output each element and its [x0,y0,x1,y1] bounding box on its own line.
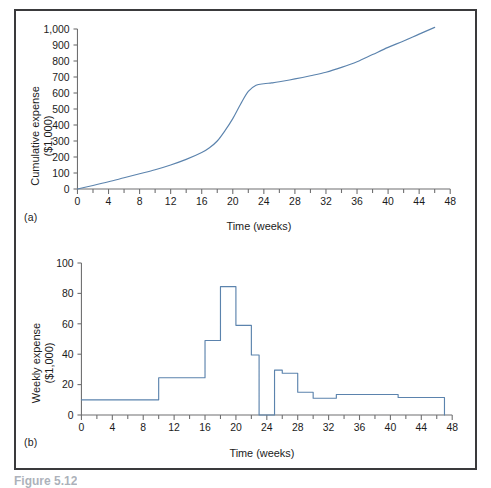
y-axis-tick-labels-a: 01002003004005006007008009001,000 [44,24,70,195]
x-axis-tick-label: 44 [416,422,428,433]
x-axis-tick-label: 12 [168,422,180,433]
x-axis-tick-label: 0 [75,196,81,207]
x-axis-tick-label: 16 [199,422,211,433]
panel-label-a: (a) [24,211,37,223]
axis-ticks-a [73,29,450,194]
x-axis-tick-label: 48 [444,196,456,207]
y-axis-tick-labels-b: 020406080100 [56,258,74,421]
chart-panel-cumulative-expense: 01002003004005006007008009001,000 048121… [16,11,475,243]
figure-frame: 01002003004005006007008009001,000 048121… [14,9,477,470]
x-axis-tick-label: 24 [258,196,270,207]
x-axis-label-b: Time (weeks) [229,447,294,459]
x-axis-tick-label: 28 [292,422,304,433]
x-axis-tick-label: 16 [196,196,208,207]
x-axis-tick-label: 4 [106,196,112,207]
chart-panel-weekly-expense: 020406080100 04812162024283236404448 Wee… [16,243,475,468]
x-axis-tick-label: 20 [230,422,242,433]
figure-caption: Figure 5.12 [14,474,77,488]
x-axis-tick-label: 24 [261,422,273,433]
x-axis-tick-label: 32 [323,422,335,433]
x-axis-tick-label: 32 [320,196,332,207]
y-axis-label-b-line2: ($1,000) [43,343,55,384]
x-axis-tick-label: 44 [413,196,425,207]
axis-lines-a [77,29,450,189]
weekly-expense-chart: 020406080100 04812162024283236404448 Wee… [16,243,475,468]
y-axis-tick-label: 100 [56,258,74,269]
cumulative-expense-series [77,27,434,189]
y-axis-tick-label: 20 [62,379,74,390]
y-axis-tick-label: 60 [62,319,74,330]
y-axis-tick-label: 300 [52,136,70,147]
y-axis-tick-label: 200 [52,152,70,163]
x-axis-tick-label: 40 [385,422,397,433]
y-axis-tick-label: 800 [52,56,70,67]
y-axis-tick-label: 700 [52,72,70,83]
x-axis-tick-label: 48 [446,422,458,433]
axis-ticks-b [77,263,452,420]
y-axis-tick-label: 1,000 [44,24,70,35]
x-axis-tick-label: 28 [289,196,301,207]
y-axis-label-b-line1: Weekly expense [30,323,42,403]
x-axis-tick-labels-a: 04812162024283236404448 [75,196,457,207]
y-axis-tick-label: 40 [62,349,74,360]
x-axis-tick-labels-b: 04812162024283236404448 [79,422,459,433]
x-axis-label-a: Time (weeks) [226,220,291,232]
y-axis-tick-label: 400 [52,120,70,131]
y-axis-tick-label: 600 [52,88,70,99]
weekly-expense-series [81,287,444,415]
x-axis-tick-label: 20 [227,196,239,207]
y-axis-label-a-line2: ($1,000) [42,116,54,157]
y-axis-label-a-line1: Cumulative expense [29,86,41,186]
y-axis-tick-label: 0 [68,410,74,421]
panel-label-b: (b) [24,436,37,448]
x-axis-tick-label: 40 [382,196,394,207]
y-axis-tick-label: 900 [52,40,70,51]
x-axis-tick-label: 36 [354,422,366,433]
axis-lines-b [81,263,452,415]
cumulative-expense-chart: 01002003004005006007008009001,000 048121… [16,11,475,243]
x-axis-tick-label: 36 [351,196,363,207]
y-axis-tick-label: 80 [62,288,74,299]
x-axis-tick-label: 8 [140,422,146,433]
x-axis-tick-label: 4 [109,422,115,433]
y-axis-tick-label: 100 [52,168,70,179]
y-axis-tick-label: 0 [64,184,70,195]
x-axis-tick-label: 8 [137,196,143,207]
x-axis-tick-label: 0 [79,422,85,433]
x-axis-tick-label: 12 [165,196,177,207]
y-axis-tick-label: 500 [52,104,70,115]
